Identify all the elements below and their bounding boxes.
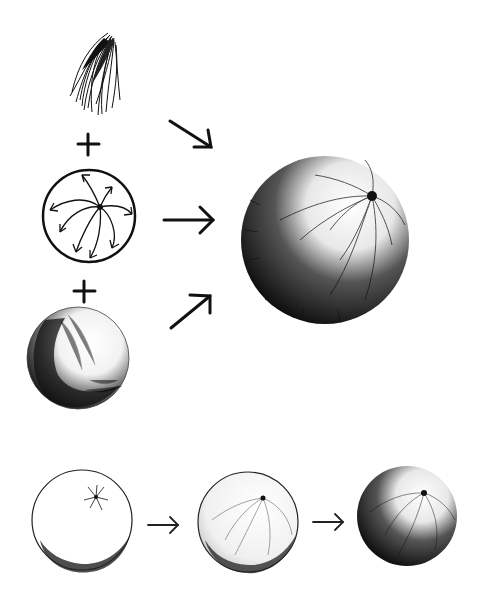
arrow-icon	[170, 121, 211, 147]
step-2-ball-icon	[198, 472, 298, 573]
arrow-icon	[171, 295, 210, 328]
fur-drawing-tutorial	[0, 0, 481, 606]
plus-icon	[78, 134, 99, 155]
step-1-ball-icon	[32, 470, 132, 573]
direction-diagram-icon	[43, 170, 135, 262]
plus-icon	[74, 281, 95, 302]
arrow-icon	[313, 514, 343, 530]
shaded-sphere-icon	[27, 307, 129, 409]
step-3-ball-icon	[357, 466, 457, 566]
arrow-icon	[164, 207, 213, 233]
arrow-icon	[148, 517, 178, 533]
furry-ball-result-icon	[241, 156, 409, 324]
